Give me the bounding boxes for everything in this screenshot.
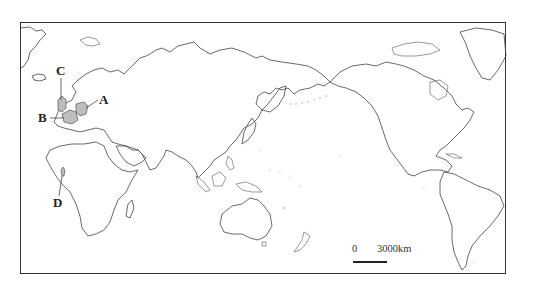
leader-line-d: [59, 176, 62, 196]
label-a: A: [99, 93, 108, 106]
arctic-archipelago: [392, 42, 440, 56]
borneo: [212, 172, 226, 186]
new-zealand: [294, 232, 310, 252]
greenland: [460, 28, 506, 80]
north-america: [330, 62, 474, 176]
caribbean-islands: [446, 154, 462, 158]
region-d-west-africa: [61, 167, 65, 176]
scale-distance-label: 3000km: [377, 243, 411, 254]
tasmania: [262, 242, 266, 246]
sumatra: [196, 176, 210, 192]
australia: [220, 198, 272, 240]
region-a-germany: [76, 102, 88, 116]
scale-zero-label: 0: [352, 243, 357, 254]
eurasia: [54, 42, 330, 178]
label-c: C: [56, 64, 65, 77]
madagascar: [126, 200, 134, 218]
greenland-west-fragment: [21, 27, 46, 68]
svalbard: [80, 37, 100, 46]
iceland: [32, 74, 46, 81]
philippines: [226, 156, 234, 170]
pacific-island-dots: [259, 95, 474, 262]
south-america: [440, 172, 504, 270]
scale-bar: [353, 261, 387, 263]
region-c-great-britain: [58, 96, 66, 112]
hudson-bay: [430, 80, 448, 100]
region-b-france: [62, 110, 78, 124]
label-d: D: [53, 196, 62, 209]
new-guinea: [236, 182, 262, 192]
label-b: B: [38, 111, 47, 124]
world-map: [0, 0, 536, 293]
leader-line-a: [86, 100, 98, 108]
